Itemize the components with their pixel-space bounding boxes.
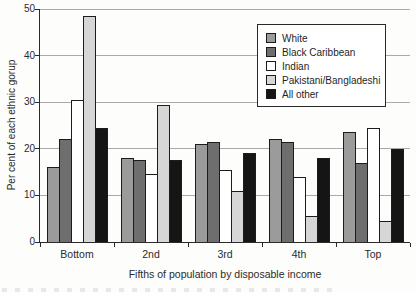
- legend-swatch-icon: [266, 61, 276, 71]
- x-axis-line: [39, 242, 410, 243]
- y-tick-20: [35, 148, 39, 149]
- y-tick-label-10: 10: [5, 190, 35, 200]
- y-tick-label-40: 40: [5, 51, 35, 61]
- legend-swatch-icon: [266, 33, 276, 43]
- x-category-label-3rd: 3rd: [188, 248, 262, 260]
- bar-all-other-2nd: [169, 160, 182, 242]
- y-tick-30: [35, 102, 39, 103]
- y-tick-50: [35, 9, 39, 10]
- x-category-label-2nd: 2nd: [114, 248, 188, 260]
- legend-swatch-icon: [266, 89, 276, 99]
- legend-item-black-caribbean: Black Caribbean: [266, 45, 379, 59]
- x-category-label-4th: 4th: [262, 248, 336, 260]
- bar-all-other-3rd: [243, 153, 256, 242]
- legend-swatch-icon: [266, 75, 276, 85]
- truncated-caption-fragment: [2, 288, 332, 292]
- legend-label: Indian: [282, 61, 309, 72]
- legend-label: White: [282, 33, 308, 44]
- legend-item-white: White: [266, 31, 379, 45]
- legend-item-all-other: All other: [266, 87, 379, 101]
- y-tick-label-30: 30: [5, 97, 35, 107]
- legend-label: All other: [282, 89, 319, 100]
- bar-all-other-top: [391, 149, 404, 242]
- legend-label: Black Caribbean: [282, 47, 355, 58]
- legend-label: Pakistani/Bangladeshi: [282, 75, 380, 86]
- x-tick-3: [262, 243, 263, 247]
- gridline-50: [40, 9, 410, 10]
- x-category-label-bottom: Bottom: [40, 248, 114, 260]
- legend-item-indian: Indian: [266, 59, 379, 73]
- x-category-label-top: Top: [336, 248, 410, 260]
- y-axis-title: Per cent of each ethnic gorup: [6, 60, 17, 191]
- bar-all-other-4th: [317, 158, 330, 242]
- y-tick-10: [35, 195, 39, 196]
- y-tick-label-0: 0: [5, 237, 35, 247]
- legend: WhiteBlack CaribbeanIndianPakistani/Bang…: [257, 24, 386, 107]
- x-tick-1: [114, 243, 115, 247]
- x-tick-5: [410, 243, 411, 247]
- grouped-bar-chart-figure: Per cent of each ethnic gorup Fifths of …: [0, 0, 416, 293]
- bar-all-other-bottom: [95, 128, 108, 242]
- y-tick-0: [35, 242, 39, 243]
- x-axis-title: Fifths of population by disposable incom…: [40, 268, 410, 280]
- legend-item-pakistani-bangladeshi: Pakistani/Bangladeshi: [266, 73, 379, 87]
- x-tick-4: [336, 243, 337, 247]
- y-axis-line: [39, 9, 40, 243]
- legend-swatch-icon: [266, 47, 276, 57]
- x-tick-2: [188, 243, 189, 247]
- y-tick-label-50: 50: [5, 4, 35, 14]
- x-tick-0: [40, 243, 41, 247]
- y-tick-40: [35, 55, 39, 56]
- y-tick-label-20: 20: [5, 144, 35, 154]
